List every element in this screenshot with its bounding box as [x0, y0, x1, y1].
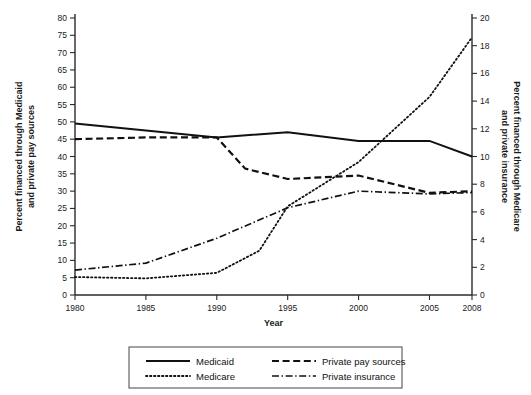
series-line-private-pay-sources [75, 137, 472, 192]
left-tick-label: 10 [58, 255, 68, 265]
left-axis-ticks: 05101520253035404550556065707580 [58, 13, 75, 300]
left-tick-label: 65 [58, 65, 68, 75]
right-tick-label: 4 [480, 235, 485, 245]
left-tick-label: 20 [58, 221, 68, 231]
legend-label-private-insurance: Private insurance [322, 371, 395, 382]
right-tick-label: 14 [480, 96, 490, 106]
right-tick-label: 10 [480, 152, 490, 162]
left-tick-label: 50 [58, 117, 68, 127]
series-line-private-insurance [75, 191, 472, 270]
right-axis-ticks: 02468101214161820 [472, 13, 490, 300]
left-tick-label: 30 [58, 186, 68, 196]
x-tick-label: 2005 [420, 303, 439, 313]
x-tick-label: 1990 [207, 303, 226, 313]
left-tick-label: 25 [58, 203, 68, 213]
left-tick-label: 5 [62, 273, 67, 283]
left-axis-title-line: and private pay sources [26, 105, 36, 208]
left-tick-label: 0 [62, 290, 67, 300]
x-tick-label: 1985 [136, 303, 155, 313]
chart-figure: 05101520253035404550556065707580 0246810… [0, 0, 531, 395]
left-tick-label: 75 [58, 30, 68, 40]
left-tick-label: 15 [58, 238, 68, 248]
left-tick-label: 35 [58, 169, 68, 179]
x-tick-label: 2000 [349, 303, 368, 313]
x-tick-label: 2008 [463, 303, 482, 313]
right-tick-label: 16 [480, 68, 490, 78]
x-tick-label: 1980 [66, 303, 85, 313]
series-line-medicaid [75, 124, 472, 157]
left-tick-label: 55 [58, 100, 68, 110]
legend-label-medicare: Medicare [196, 371, 235, 382]
right-tick-label: 6 [480, 207, 485, 217]
right-tick-label: 2 [480, 262, 485, 272]
series-line-medicare [75, 37, 472, 278]
x-axis-title: Year [264, 318, 284, 328]
left-tick-label: 40 [58, 152, 68, 162]
legend-label-medicaid: Medicaid [196, 356, 234, 367]
series-lines [75, 37, 472, 278]
right-axis-title-line: Percent financed through Medicare [512, 81, 522, 232]
left-axis-title: Percent financed through Medicaidand pri… [14, 81, 36, 231]
chart-legend: MedicaidPrivate pay sourcesMedicarePriva… [129, 347, 406, 388]
right-axis-title: Percent financed through Medicareand pri… [500, 81, 522, 232]
left-tick-label: 45 [58, 134, 68, 144]
right-tick-label: 8 [480, 179, 485, 189]
x-tick-label: 1995 [278, 303, 297, 313]
right-tick-label: 12 [480, 124, 490, 134]
left-tick-label: 80 [58, 13, 68, 23]
right-tick-label: 18 [480, 41, 490, 51]
plot-area [75, 14, 472, 295]
left-tick-label: 70 [58, 48, 68, 58]
legend-label-private-pay-sources: Private pay sources [322, 356, 406, 367]
line-chart: 05101520253035404550556065707580 0246810… [0, 0, 531, 395]
right-tick-label: 0 [480, 290, 485, 300]
x-axis-ticks: 1980198519901995200020052008 [66, 295, 482, 313]
right-tick-label: 20 [480, 13, 490, 23]
left-tick-label: 60 [58, 82, 68, 92]
right-axis-title-line: and private insurance [500, 110, 510, 203]
left-axis-title-line: Percent financed through Medicaid [14, 81, 24, 231]
